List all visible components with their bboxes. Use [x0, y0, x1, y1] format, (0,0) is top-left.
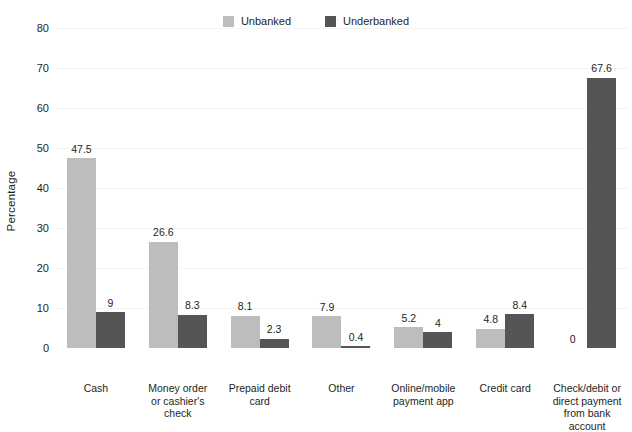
x-axis-category-line: Credit card — [464, 382, 546, 395]
bar-rect — [149, 242, 178, 348]
bar-group: 8.12.3 — [219, 28, 301, 348]
x-axis-category-line: Money order — [137, 382, 219, 395]
bar-value-label: 9 — [108, 298, 114, 309]
bar-group: 47.59 — [55, 28, 137, 348]
bar-pair: 7.90.4 — [301, 28, 383, 348]
y-axis-title: Percentage — [2, 0, 20, 402]
bar-pair: 5.24 — [382, 28, 464, 348]
x-axis-category-label: Cash — [55, 382, 137, 395]
bar-value-label: 8.4 — [512, 300, 527, 311]
x-axis-category-label: Prepaid debitcard — [219, 382, 301, 407]
bar-value-label: 2.3 — [267, 324, 282, 335]
bar-value-label: 5.2 — [402, 313, 417, 324]
bar-underbanked[interactable]: 0.4 — [341, 28, 370, 348]
bar-group: 5.24 — [382, 28, 464, 348]
bar-unbanked[interactable]: 47.5 — [67, 28, 96, 348]
bar-rect — [96, 312, 125, 348]
bar-rect — [312, 316, 341, 348]
bar-underbanked[interactable]: 4 — [423, 28, 452, 348]
y-tick-label-10: 10 — [23, 303, 49, 314]
y-tick-label-60: 60 — [23, 103, 49, 114]
bar-value-label: 67.6 — [591, 63, 611, 74]
bar-value-label: 4.8 — [483, 314, 498, 325]
x-axis-category-line: or cashier's — [137, 395, 219, 408]
y-tick-label-70: 70 — [23, 63, 49, 74]
bar-pair: 26.68.3 — [137, 28, 219, 348]
x-axis-category-line: payment app — [382, 395, 464, 408]
legend-item-underbanked[interactable]: Underbanked — [325, 16, 409, 27]
x-axis-category-line: Prepaid debit — [219, 382, 301, 395]
bar-underbanked[interactable]: 67.6 — [587, 28, 616, 348]
bar-group: 067.6 — [546, 28, 628, 348]
bar-unbanked[interactable]: 26.6 — [149, 28, 178, 348]
bar-value-label: 26.6 — [153, 227, 173, 238]
bar-rect — [423, 332, 452, 348]
bar-unbanked[interactable]: 8.1 — [231, 28, 260, 348]
y-tick-label-50: 50 — [23, 143, 49, 154]
x-axis-category-line: Other — [301, 382, 383, 395]
x-axis-category-line: check — [137, 407, 219, 420]
y-tick-label-80: 80 — [23, 23, 49, 34]
bar-group: 7.90.4 — [301, 28, 383, 348]
chart-legend: Unbanked Underbanked — [0, 16, 632, 27]
bar-rect — [476, 329, 505, 348]
y-tick-label-20: 20 — [23, 263, 49, 274]
bar-rect — [341, 346, 370, 348]
bar-group: 4.88.4 — [464, 28, 546, 348]
bar-rect — [394, 327, 423, 348]
bar-rect — [67, 158, 96, 348]
bar-underbanked[interactable]: 2.3 — [260, 28, 289, 348]
legend-label-unbanked: Unbanked — [241, 16, 291, 27]
bar-pair: 8.12.3 — [219, 28, 301, 348]
legend-item-unbanked[interactable]: Unbanked — [223, 16, 291, 27]
x-axis-category-line: Cash — [55, 382, 137, 395]
bar-rect — [231, 316, 260, 348]
bar-underbanked[interactable]: 9 — [96, 28, 125, 348]
x-axis-category-line: from bank account — [546, 407, 628, 432]
bar-value-label: 8.1 — [238, 301, 253, 312]
bar-pair: 4.88.4 — [464, 28, 546, 348]
plot-area: 47.59Cash26.68.3Money orderor cashier'sc… — [55, 28, 628, 348]
x-axis-category-label: Money orderor cashier'scheck — [137, 382, 219, 420]
y-tick-label-40: 40 — [23, 183, 49, 194]
bar-value-label: 47.5 — [71, 144, 91, 155]
x-axis-category-label: Credit card — [464, 382, 546, 395]
legend-swatch-unbanked — [223, 16, 234, 27]
bar-value-label: 4 — [435, 318, 441, 329]
bar-value-label: 7.9 — [320, 302, 335, 313]
bar-unbanked[interactable]: 0 — [558, 28, 587, 348]
legend-swatch-underbanked — [325, 16, 336, 27]
bar-value-label: 0 — [570, 334, 576, 345]
bar-value-label: 8.3 — [185, 300, 200, 311]
legend-label-underbanked: Underbanked — [343, 16, 409, 27]
x-axis-category-label: Check/debit ordirect paymentfrom bank ac… — [546, 382, 628, 432]
x-axis-category-line: card — [219, 395, 301, 408]
bar-underbanked[interactable]: 8.4 — [505, 28, 534, 348]
bar-value-label: 0.4 — [349, 332, 364, 343]
y-tick-label-0: 0 — [23, 343, 49, 354]
bar-unbanked[interactable]: 7.9 — [312, 28, 341, 348]
bar-unbanked[interactable]: 4.8 — [476, 28, 505, 348]
y-axis-title-text: Percentage — [5, 171, 17, 232]
bar-rect — [587, 78, 616, 348]
x-axis-category-line: Online/mobile — [382, 382, 464, 395]
x-axis-category-label: Other — [301, 382, 383, 395]
bar-rect — [260, 339, 289, 348]
x-axis-category-label: Online/mobilepayment app — [382, 382, 464, 407]
bar-group: 26.68.3 — [137, 28, 219, 348]
bar-pair: 067.6 — [546, 28, 628, 348]
x-axis-category-line: Check/debit or — [546, 382, 628, 395]
bar-unbanked[interactable]: 5.2 — [394, 28, 423, 348]
x-axis-category-line: direct payment — [546, 395, 628, 408]
bar-rect — [505, 314, 534, 348]
bar-underbanked[interactable]: 8.3 — [178, 28, 207, 348]
bar-pair: 47.59 — [55, 28, 137, 348]
y-axis-ticks: 80706050403020100 — [20, 28, 49, 348]
y-tick-label-30: 30 — [23, 223, 49, 234]
bar-rect — [178, 315, 207, 348]
